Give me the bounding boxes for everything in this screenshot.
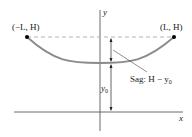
left-endpoint-dot: [25, 35, 29, 39]
sag-dimension-arrow: [110, 38, 113, 62]
x-axis-label: x: [178, 113, 183, 123]
y0-dimension-arrow: [110, 64, 113, 111]
sag-label: Sag: H − y0: [130, 74, 172, 85]
right-point-label: (L, H): [160, 22, 183, 32]
catenary-curve: [27, 37, 174, 63]
right-endpoint-dot: [172, 35, 176, 39]
catenary-diagram: y x (−L, H) (L, H) Sag: H − y0 y0: [0, 0, 192, 137]
y0-label: y0: [100, 83, 108, 94]
left-point-label: (−L, H): [12, 22, 40, 32]
sag-leader-line: [113, 50, 147, 72]
y-axis-label: y: [102, 7, 107, 17]
